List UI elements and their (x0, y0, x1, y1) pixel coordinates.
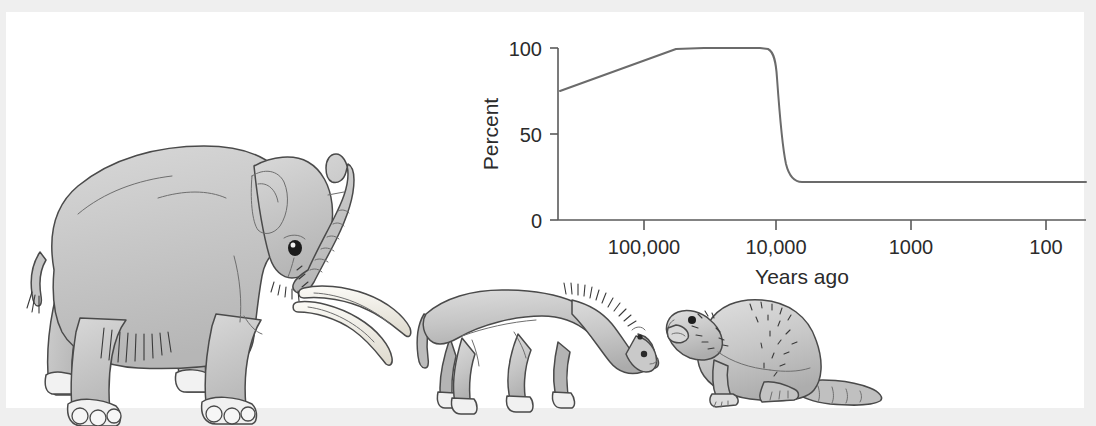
horse-illustration (410, 280, 668, 420)
x-tick-2: 1000 (889, 236, 934, 258)
figure-container: 100 50 0 100,000 10,000 1000 100 Percent… (0, 0, 1096, 426)
x-tick-3: 100 (1029, 236, 1062, 258)
x-tick-0: 100,000 (608, 236, 680, 258)
extinction-curve (560, 48, 1086, 182)
figure-canvas: 100 50 0 100,000 10,000 1000 100 Percent… (6, 12, 1084, 408)
beaver-illustration (658, 288, 888, 420)
extinction-line-chart: 100 50 0 100,000 10,000 1000 100 Percent… (472, 30, 1096, 298)
y-tick-100: 100 (509, 38, 542, 60)
y-axis-title: Percent (479, 98, 502, 171)
x-axis-title: Years ago (755, 265, 849, 288)
y-tick-0: 0 (531, 210, 542, 232)
y-tick-50: 50 (520, 124, 542, 146)
mammoth-illustration (8, 70, 412, 418)
x-tick-1: 10,000 (745, 236, 806, 258)
